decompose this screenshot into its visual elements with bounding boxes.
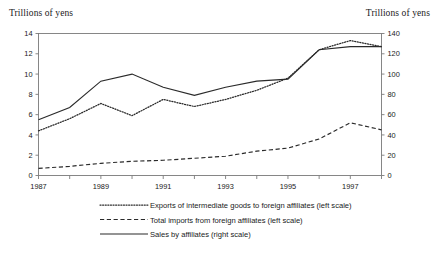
plot-frame [39,34,382,176]
svg-text:1989: 1989 [93,182,109,191]
svg-text:6: 6 [28,110,32,119]
svg-text:140: 140 [388,29,400,38]
svg-text:20: 20 [388,151,396,160]
svg-text:10: 10 [24,70,32,79]
svg-text:1991: 1991 [155,182,171,191]
line-chart: 02468101214 020406080100120140 198719891… [0,0,438,253]
svg-text:100: 100 [388,70,400,79]
svg-text:0: 0 [388,171,392,180]
svg-text:1987: 1987 [30,182,46,191]
svg-text:14: 14 [24,29,32,38]
svg-text:Sales by affiliates (right sca: Sales by affiliates (right scale) [150,230,251,239]
svg-text:80: 80 [388,90,396,99]
svg-text:1997: 1997 [342,182,358,191]
svg-text:4: 4 [28,131,32,140]
x-axis-ticks: 198719891991199319951997 [30,176,381,191]
svg-text:120: 120 [388,49,400,58]
svg-text:8: 8 [28,90,32,99]
right-axis-ticks: 020406080100120140 [382,29,400,180]
svg-text:12: 12 [24,49,32,58]
svg-text:40: 40 [388,131,396,140]
series-lines [39,41,382,169]
chart-container: Trillions of yens Trillions of yens 0246… [0,0,438,253]
svg-text:Exports of intermediate goods: Exports of intermediate goods to foreign… [150,201,352,210]
svg-text:1995: 1995 [280,182,296,191]
svg-text:60: 60 [388,110,396,119]
svg-text:2: 2 [28,151,32,160]
svg-text:0: 0 [28,171,32,180]
chart-legend: Exports of intermediate goods to foreign… [100,201,352,239]
left-axis-ticks: 02468101214 [24,29,38,180]
svg-text:1993: 1993 [217,182,233,191]
svg-text:Total imports from foreign aff: Total imports from foreign affiliates (l… [150,216,303,225]
